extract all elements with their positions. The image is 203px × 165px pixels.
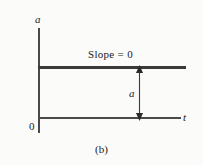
figure-caption: (b) <box>0 144 203 155</box>
slope-annotation-label: Slope = 0 <box>88 49 133 60</box>
magnitude-label: a <box>129 88 135 99</box>
horizontal-axis <box>38 117 181 119</box>
magnitude-double-arrow-icon <box>134 65 145 121</box>
x-axis-label: t <box>183 112 186 123</box>
origin-label: 0 <box>29 121 35 132</box>
acceleration-line <box>38 66 186 69</box>
y-axis-label: a <box>35 14 41 25</box>
acceleration-vs-time-figure: Slope = 0 a a t 0 (b) <box>0 0 203 165</box>
